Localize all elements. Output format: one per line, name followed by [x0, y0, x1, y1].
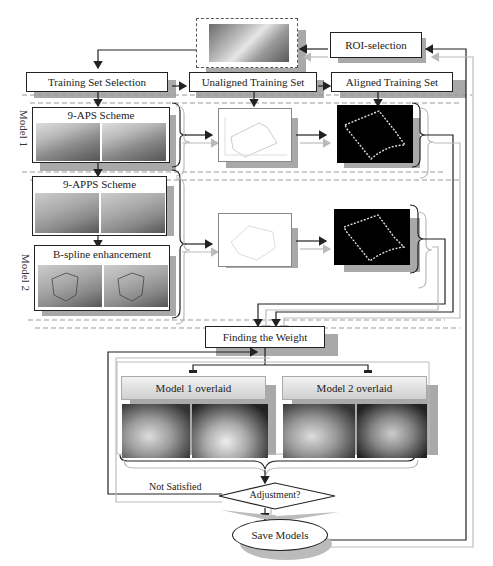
unaligned-shape-1: [219, 109, 291, 161]
model1-overlaid-label: Model 1 overlaid: [156, 382, 232, 394]
model-2-side-label: Model 2: [20, 254, 32, 291]
training-set-selection-box[interactable]: Training Set Selection: [26, 72, 168, 92]
adjustment-diamond[interactable]: [215, 482, 340, 522]
model1-xray-1: [122, 404, 190, 458]
model2-xray-2: [357, 404, 427, 458]
aps-image-1: [36, 123, 100, 161]
roi-image-frame: [196, 18, 298, 68]
bspline-title: B-spline enhancement: [35, 248, 169, 260]
aligned-shape-model1: [337, 105, 413, 163]
unaligned-plot-model1: [218, 108, 292, 162]
model1-overlaid-title: Model 1 overlaid: [121, 376, 266, 400]
bspline-panel[interactable]: B-spline enhancement: [34, 245, 170, 311]
unaligned-training-set-box[interactable]: Unaligned Training Set: [189, 72, 317, 92]
model-1-side-label: Model 1: [18, 110, 30, 147]
apps-scheme-title: 9-APPS Scheme: [33, 178, 166, 190]
bspline-image-2: [104, 265, 168, 307]
save-models-node[interactable]: Save Models: [232, 519, 328, 551]
aps-scheme-title: 9-APS Scheme: [33, 109, 169, 121]
aligned-training-set-box[interactable]: Aligned Training Set: [331, 72, 453, 92]
aligned-contour-1: [337, 105, 413, 163]
finding-weight-label: Finding the Weight: [223, 331, 307, 343]
unaligned-plot-model2: [218, 213, 292, 267]
apps-scheme-panel[interactable]: 9-APPS Scheme: [32, 176, 167, 236]
model2-overlaid-title: Model 2 overlaid: [282, 376, 427, 400]
aligned-shape-model2: [334, 209, 410, 265]
apps-image-2: [101, 193, 165, 233]
unaligned-shape-2: [219, 214, 291, 266]
bspline-contour-1: [38, 265, 102, 307]
model1-xray-2: [192, 404, 268, 458]
save-models-label: Save Models: [251, 529, 308, 541]
roi-image: [209, 24, 289, 62]
roi-selection-box[interactable]: ROI-selection: [330, 32, 422, 58]
unaligned-training-set-label: Unaligned Training Set: [202, 76, 305, 88]
adjustment-label: Adjustment?: [240, 489, 310, 500]
aps-scheme-panel[interactable]: 9-APS Scheme: [32, 107, 170, 163]
bspline-contour-2: [104, 265, 168, 307]
aligned-training-set-label: Aligned Training Set: [346, 76, 438, 88]
aps-image-2: [102, 123, 166, 161]
model2-xray-1: [283, 404, 355, 458]
roi-selection-label: ROI-selection: [345, 39, 407, 51]
bspline-image-1: [38, 265, 102, 307]
model2-overlaid-label: Model 2 overlaid: [317, 382, 393, 394]
apps-image-1: [35, 193, 99, 233]
training-set-selection-label: Training Set Selection: [48, 76, 146, 88]
aligned-contour-2: [334, 209, 410, 265]
finding-weight-box[interactable]: Finding the Weight: [205, 326, 325, 348]
not-satisfied-label: Not Satisfied: [149, 481, 202, 492]
